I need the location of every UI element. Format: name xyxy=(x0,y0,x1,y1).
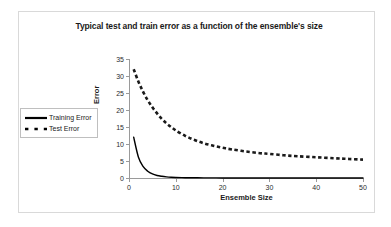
x-tick-mark xyxy=(363,179,364,182)
legend-label: Training Error xyxy=(49,113,92,122)
x-tick-mark xyxy=(316,179,317,182)
x-tick-label: 20 xyxy=(211,184,235,191)
x-tick-mark xyxy=(223,179,224,182)
chart-legend: Training ErrorTest Error xyxy=(20,108,98,138)
x-tick-mark xyxy=(176,179,177,182)
x-tick-mark xyxy=(129,179,130,182)
x-tick-label: 30 xyxy=(257,184,281,191)
x-tick-label: 10 xyxy=(164,184,188,191)
chart-frame: Typical test and train error as a functi… xyxy=(18,11,375,213)
series-lines xyxy=(129,59,363,178)
x-axis-title: Ensemble Size xyxy=(129,193,364,202)
x-tick-label: 40 xyxy=(304,184,328,191)
x-tick-label: 0 xyxy=(117,184,141,191)
legend-item[interactable]: Training Error xyxy=(23,112,95,123)
legend-item[interactable]: Test Error xyxy=(23,123,95,134)
x-tick-mark xyxy=(269,179,270,182)
x-tick-label: 50 xyxy=(351,184,375,191)
legend-solid-line-icon xyxy=(23,113,49,123)
test-error-line xyxy=(134,69,363,159)
legend-dashed-line-icon xyxy=(23,124,49,134)
legend-label: Test Error xyxy=(49,124,79,133)
training-error-line xyxy=(134,137,363,178)
plot-area xyxy=(129,59,363,178)
